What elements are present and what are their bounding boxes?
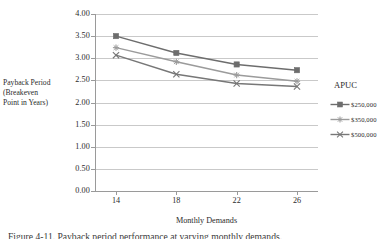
- data-point-marker-square: [338, 102, 343, 107]
- data-point-marker-cross: [294, 83, 300, 89]
- legend-label: $500,000: [351, 131, 377, 139]
- y-tick-label: 1.50: [50, 121, 90, 129]
- data-point-marker-star: [113, 45, 119, 51]
- gridline: [95, 14, 318, 15]
- y-tick-label: 2.00: [50, 99, 90, 107]
- data-point-marker-square: [174, 50, 179, 55]
- y-tick-label: 0.00: [50, 187, 90, 195]
- data-point-marker-cross: [173, 71, 179, 77]
- gridline: [95, 36, 318, 37]
- legend-rows: $250,000$350,000$500,000: [330, 97, 390, 142]
- series-line: [116, 55, 297, 86]
- series-2: [113, 45, 300, 85]
- data-point-marker-star: [173, 59, 179, 65]
- legend-item-3[interactable]: $500,000: [330, 127, 390, 142]
- x-tick-label: 26: [277, 196, 317, 205]
- x-tick-label: 14: [96, 196, 136, 205]
- x-tick-label: 22: [217, 196, 257, 205]
- y-tick-label: 1.00: [50, 143, 90, 151]
- data-point-marker-star: [337, 117, 343, 123]
- legend-item-1[interactable]: $250,000: [330, 97, 390, 112]
- legend-swatch-cross-icon: [330, 129, 350, 140]
- gridline: [95, 103, 318, 104]
- x-axis-line: [95, 191, 318, 192]
- series-line: [116, 36, 297, 70]
- figure-caption: Figure 4-11. Payback period performance …: [8, 231, 382, 239]
- legend-swatch-star-icon: [330, 114, 350, 125]
- series-line: [116, 48, 297, 82]
- data-point-marker-star: [234, 72, 240, 78]
- legend-title: APUC: [330, 80, 390, 91]
- y-axis-tick-labels: 4.003.503.002.502.001.501.000.500.00: [45, 0, 90, 239]
- payback-period-line-chart: Payback Period (Breakeven Point in Years…: [0, 0, 390, 239]
- legend-swatch-square-icon: [330, 99, 350, 110]
- y-axis-line: [95, 14, 96, 191]
- data-point-marker-square: [294, 68, 299, 73]
- series-1: [113, 34, 299, 73]
- y-tick-label: 0.50: [50, 165, 90, 173]
- y-tick-label: 4.00: [50, 10, 90, 18]
- chart-legend: APUC $250,000$350,000$500,000: [330, 80, 390, 142]
- y-tick-label: 3.00: [50, 54, 90, 62]
- gridline: [95, 147, 318, 148]
- legend-item-2[interactable]: $350,000: [330, 112, 390, 127]
- gridline: [95, 80, 318, 81]
- y-tick-label: 3.50: [50, 32, 90, 40]
- y-tick-label: 2.50: [50, 76, 90, 84]
- gridline: [95, 125, 318, 126]
- data-point-marker-square: [234, 62, 239, 67]
- gridline: [95, 58, 318, 59]
- legend-label: $250,000: [351, 101, 377, 109]
- x-axis-title: Monthly Demands: [95, 216, 318, 225]
- legend-label: $350,000: [351, 116, 377, 124]
- x-tick-label: 18: [156, 196, 196, 205]
- gridline: [95, 169, 318, 170]
